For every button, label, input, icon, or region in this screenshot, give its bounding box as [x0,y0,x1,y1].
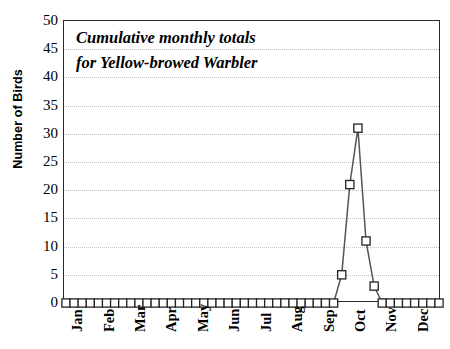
x-tick-label: Aug [290,288,305,332]
y-axis-tick-labels: 05101520253035404550 [26,20,58,302]
data-point-marker [346,180,354,188]
y-tick-label: 45 [26,41,58,56]
x-tick-label: Apr [164,288,179,332]
chart-container: Number of Birds 05101520253035404550 Cum… [0,0,450,349]
x-tick-label: Dec [416,288,431,332]
plot-area: Cumulative monthly totals for Yellow-bro… [63,20,440,302]
y-tick-label: 40 [26,69,58,84]
y-tick-label: 15 [26,210,58,225]
x-tick-label: May [196,288,211,332]
y-tick-label: 0 [26,295,58,310]
data-point-marker [370,282,378,290]
y-tick-label: 50 [26,13,58,28]
data-point-marker [338,271,346,279]
x-tick-label: Jul [259,288,274,332]
y-tick-label: 35 [26,97,58,112]
x-tick-label: Feb [102,288,117,332]
x-axis-tick-labels: JanFebMarAprMayJunJulAugSepOctNovDec [63,304,440,349]
x-tick-label: Sep [322,288,337,332]
y-tick-label: 20 [26,182,58,197]
x-tick-label: Jun [227,288,242,332]
y-tick-label: 30 [26,125,58,140]
x-tick-label: Jan [70,288,85,332]
x-tick-label: Mar [133,288,148,332]
x-tick-label: Nov [384,288,399,332]
data-series-layer [64,21,441,303]
x-tick-label: Oct [353,288,368,332]
y-tick-label: 10 [26,238,58,253]
y-axis-title: Number of Birds [11,49,25,189]
data-point-marker [362,237,370,245]
y-tick-label: 25 [26,154,58,169]
series-line [66,128,439,303]
y-tick-label: 5 [26,266,58,281]
data-point-marker [354,124,362,132]
